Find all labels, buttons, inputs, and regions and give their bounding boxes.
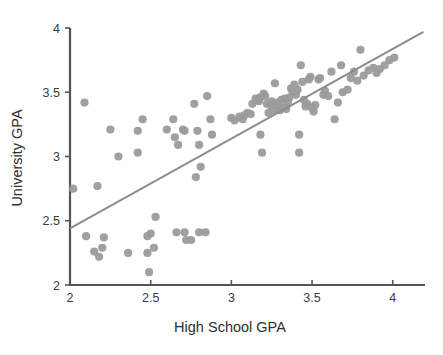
scatter-point: [124, 249, 132, 257]
scatter-point: [295, 131, 303, 139]
scatter-point: [324, 92, 332, 100]
scatter-point: [143, 249, 151, 257]
scatter-point: [195, 141, 203, 149]
scatter-point: [193, 127, 201, 135]
y-tick-label: 2.5: [43, 214, 60, 228]
scatter-point: [180, 127, 188, 135]
y-axis-ticks: 22.533.54: [43, 22, 70, 293]
scatter-point: [134, 149, 142, 157]
x-tick-label: 2.5: [142, 291, 159, 305]
scatter-point: [134, 127, 142, 135]
x-axis-title: High School GPA: [174, 319, 286, 335]
scatter-point: [190, 100, 198, 108]
scatter-point: [311, 101, 319, 109]
scatter-point: [353, 77, 361, 85]
scatter-point: [247, 110, 255, 118]
x-tick-label: 4: [389, 291, 396, 305]
y-tick-label: 2: [53, 279, 60, 293]
scatter-point: [203, 92, 211, 100]
regression-line: [70, 32, 423, 229]
x-tick-label: 3.5: [303, 291, 320, 305]
scatter-point: [172, 228, 180, 236]
scatter-point: [139, 115, 147, 123]
scatter-point: [171, 133, 179, 141]
scatter-point: [256, 131, 264, 139]
x-axis-ticks: 22.533.54: [67, 280, 397, 305]
scatter-point: [293, 86, 301, 94]
scatter-plot-figure: 22.533.54 22.533.54 High School GPA Univ…: [0, 0, 443, 355]
scatter-point: [208, 131, 216, 139]
scatter-point: [93, 182, 101, 190]
scatter-point: [82, 232, 90, 240]
scatter-point: [98, 244, 106, 252]
y-tick-label: 4: [53, 22, 60, 36]
scatter-point: [261, 92, 269, 100]
x-tick-label: 3: [228, 291, 235, 305]
scatter-point: [258, 149, 266, 157]
scatter-point: [100, 233, 108, 241]
scatter-point: [114, 152, 122, 160]
scatter-point: [316, 74, 324, 82]
scatter-point: [169, 115, 177, 123]
scatter-point: [390, 53, 398, 61]
scatter-point: [271, 79, 279, 87]
scatter-point: [151, 213, 159, 221]
scatter-point: [187, 236, 195, 244]
scatter-point: [327, 68, 335, 76]
scatter-point-group: [69, 46, 398, 277]
scatter-point: [174, 141, 182, 149]
scatter-point: [201, 228, 209, 236]
scatter-point: [106, 125, 114, 133]
scatter-point: [192, 173, 200, 181]
scatter-point: [180, 228, 188, 236]
y-tick-label: 3.5: [43, 86, 60, 100]
scatter-point: [163, 125, 171, 133]
scatter-point: [150, 244, 158, 252]
y-axis-title: University GPA: [9, 109, 25, 207]
scatter-point: [295, 149, 303, 157]
scatter-point: [356, 46, 364, 54]
scatter-point: [197, 163, 205, 171]
scatter-point: [343, 86, 351, 94]
scatter-point: [337, 61, 345, 69]
scatter-point: [147, 230, 155, 238]
scatter-point: [80, 98, 88, 106]
scatter-point: [206, 115, 214, 123]
scatter-point: [331, 115, 339, 123]
plot-canvas: 22.533.54 22.533.54 High School GPA Univ…: [0, 0, 443, 355]
scatter-point: [306, 73, 314, 81]
scatter-point: [95, 253, 103, 261]
y-tick-label: 3: [53, 150, 60, 164]
scatter-point: [145, 268, 153, 276]
scatter-point: [334, 98, 342, 106]
x-tick-label: 2: [67, 291, 74, 305]
scatter-point: [297, 61, 305, 69]
scatter-point: [69, 185, 77, 193]
